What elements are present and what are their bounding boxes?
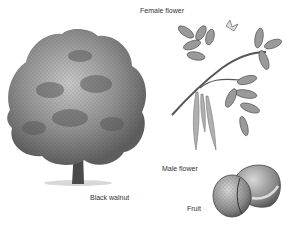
female-flower-branch [172, 20, 283, 137]
male-flower-label: Male flower [162, 165, 198, 172]
walnut-illustration: Female flower Male flower Black walnut F… [0, 0, 287, 230]
male-flower-catkins [193, 92, 216, 150]
black-walnut-tree [7, 29, 146, 186]
female-flower-label: Female flower [140, 7, 184, 14]
walnut-fruit [213, 165, 280, 217]
illustration-graphics [0, 0, 287, 230]
fruit-label: Fruit [187, 205, 201, 212]
tree-label: Black walnut [90, 194, 129, 201]
